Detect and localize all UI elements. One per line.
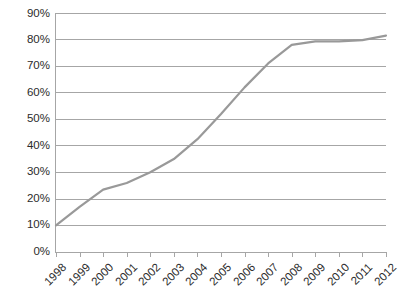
data-series-line	[56, 36, 386, 226]
series-layer	[0, 0, 402, 305]
line-chart: 90% 80% 70% 60% 50% 40% 30% 20% 10% 0% 1…	[0, 0, 402, 305]
